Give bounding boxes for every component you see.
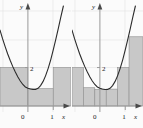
x-axis-label: x [61,113,66,121]
chart-panel-left: y x 0 1 2 [0,0,71,128]
riemann-bars-right [72,37,143,106]
riemann-bar [118,68,129,106]
y-tick-2-label: 2 [30,65,34,73]
riemann-bar [72,68,83,106]
riemann-bar [129,37,143,106]
riemann-bar [0,68,28,106]
origin-label: 0 [21,113,25,121]
x-axis-label: x [133,113,138,121]
origin-label: 0 [93,113,97,121]
riemann-bars-left [0,68,71,106]
y-axis-label: y [91,3,96,11]
x-tick-1-label: 1 [50,113,54,121]
riemann-bar [83,88,94,106]
y-axis-label: y [19,3,24,11]
riemann-bar [28,89,53,106]
riemann-bar [95,89,106,106]
right-panel-svg: y x 0 1 2 [72,0,143,128]
chart-panel-right: y x 0 1 2 [72,0,143,128]
y-tick-2-label: 2 [102,65,106,73]
riemann-sum-figure: y x 0 1 2 [0,0,143,128]
left-panel-svg: y x 0 1 2 [0,0,71,128]
riemann-bar [106,89,117,106]
riemann-bar [53,68,71,106]
x-tick-1-label: 1 [122,113,126,121]
